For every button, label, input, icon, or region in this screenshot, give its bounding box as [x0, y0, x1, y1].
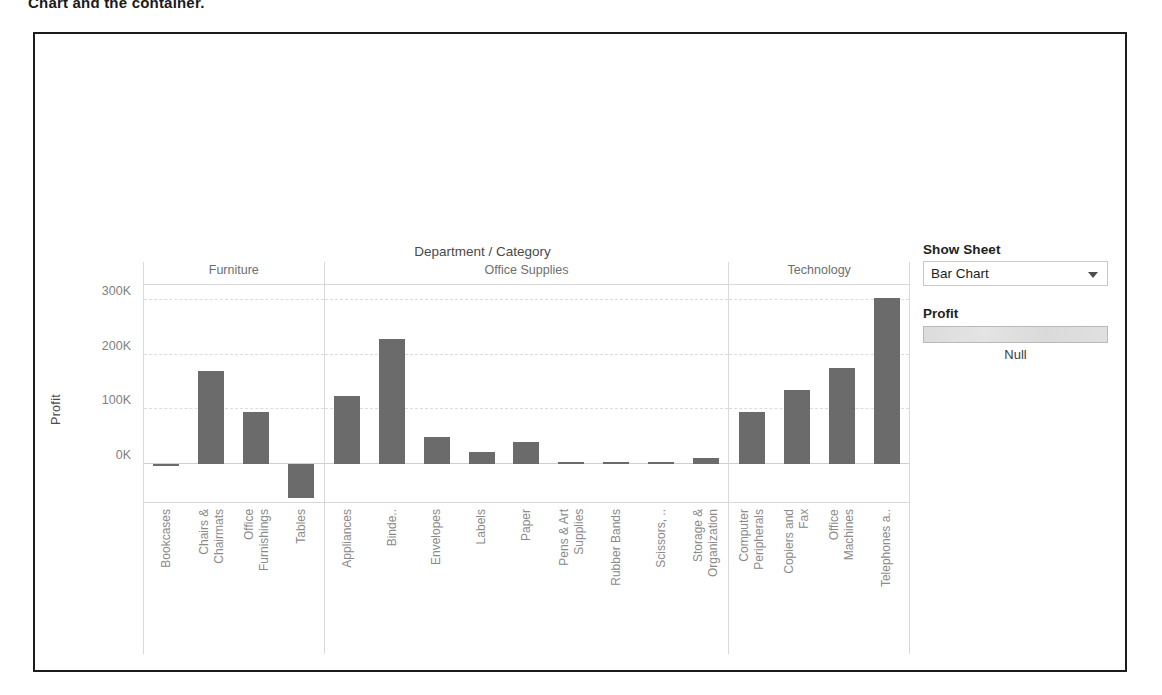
x-axis-label: Chairs & Chairmats — [197, 509, 226, 564]
bar[interactable] — [469, 452, 495, 464]
bar-slot — [325, 284, 370, 502]
bar[interactable] — [829, 368, 855, 463]
x-label-slot: Paper — [504, 503, 549, 660]
bar-slot — [459, 284, 504, 502]
plot-panel-technology — [729, 284, 909, 502]
x-label-slot: Pens & Art Supplies — [549, 503, 594, 660]
bar[interactable] — [379, 339, 405, 464]
x-axis-label: Bookcases — [159, 509, 174, 568]
x-axis-label: Copiers and Fax — [782, 509, 811, 574]
x-axis-label: Labels — [474, 509, 489, 544]
x-axis-label: Office Machines — [827, 509, 856, 560]
bar[interactable] — [874, 298, 900, 464]
x-axis-labels: BookcasesChairs & ChairmatsOffice Furnis… — [143, 502, 910, 654]
x-axis-label: Paper — [519, 509, 534, 541]
x-label-panel: Computer PeripheralsCopiers and FaxOffic… — [729, 503, 909, 654]
panel-header-furniture: Furniture — [143, 262, 324, 284]
bar-slot — [819, 284, 864, 502]
plot-panel-furniture — [144, 284, 325, 502]
y-axis-title: Profit — [49, 394, 63, 425]
dashboard-controls: Show Sheet Bar Chart Profit Null — [923, 242, 1113, 362]
x-label-slot: Rubber Bands — [594, 503, 639, 660]
x-label-slot: Office Furnishings — [234, 503, 279, 660]
bar[interactable] — [693, 458, 719, 463]
bar[interactable] — [513, 442, 539, 464]
panel-header-office-supplies: Office Supplies — [324, 262, 729, 284]
bar-slot — [549, 284, 594, 502]
x-label-slot: Telephones a.. — [864, 503, 909, 660]
bar[interactable] — [243, 412, 269, 464]
legend-null-label: Null — [923, 347, 1108, 362]
show-sheet-label: Show Sheet — [923, 242, 1113, 257]
bar[interactable] — [558, 462, 584, 464]
x-axis-label: Tables — [294, 509, 309, 544]
bar[interactable] — [198, 371, 224, 464]
bar-slot — [594, 284, 639, 502]
x-label-panel: BookcasesChairs & ChairmatsOffice Furnis… — [144, 503, 325, 654]
dashboard: Department / Category Profit 0K100K200K3… — [35, 34, 1125, 670]
x-axis-label: Telephones a.. — [879, 509, 894, 587]
bar[interactable] — [648, 462, 674, 464]
bar-slot — [234, 284, 279, 502]
x-axis-label: Computer Peripherals — [737, 509, 766, 570]
bar-slot — [864, 284, 909, 502]
x-axis-label: Appliances — [340, 509, 355, 568]
x-axis-label: Office Furnishings — [242, 509, 271, 571]
bar[interactable] — [424, 437, 450, 464]
panel-header-technology: Technology — [728, 262, 910, 284]
x-label-slot: Envelopes — [414, 503, 459, 660]
chevron-down-icon[interactable] — [1088, 272, 1098, 278]
x-label-slot: Chairs & Chairmats — [189, 503, 234, 660]
x-label-slot: Copiers and Fax — [774, 503, 819, 660]
x-label-slot: Computer Peripherals — [729, 503, 774, 660]
plot-canvas — [143, 284, 910, 502]
bar-slot — [144, 284, 189, 502]
bar-slot — [279, 284, 324, 502]
bar-slot — [639, 284, 684, 502]
x-label-slot: Appliances — [325, 503, 370, 660]
x-label-slot: Binde.. — [369, 503, 414, 660]
x-label-slot: Bookcases — [144, 503, 189, 660]
bar-slot — [684, 284, 729, 502]
x-axis-label: Pens & Art Supplies — [557, 509, 586, 566]
bar-slot — [504, 284, 549, 502]
plot-panel-office-supplies — [325, 284, 730, 502]
x-axis-label: Scissors, .. — [654, 509, 669, 568]
chart-title: Department / Category — [55, 244, 910, 259]
y-axis-ticks: 0K100K200K300K — [73, 266, 137, 502]
legend-title: Profit — [923, 306, 1113, 321]
bar-slot — [369, 284, 414, 502]
bar-slot — [414, 284, 459, 502]
page-top-cut-text: Chart and the container. — [28, 0, 448, 8]
x-label-panel: AppliancesBinde..EnvelopesLabelsPaperPen… — [325, 503, 730, 654]
bar[interactable] — [334, 396, 360, 464]
bar[interactable] — [739, 412, 765, 464]
bar-slot — [774, 284, 819, 502]
x-axis-label: Rubber Bands — [609, 509, 624, 586]
x-label-slot: Scissors, .. — [639, 503, 684, 660]
x-label-slot: Labels — [459, 503, 504, 660]
x-axis-label: Envelopes — [429, 509, 444, 565]
x-label-slot: Tables — [279, 503, 324, 660]
show-sheet-dropdown[interactable]: Bar Chart — [923, 261, 1108, 286]
x-label-slot: Office Machines — [819, 503, 864, 660]
x-label-slot: Storage & Organization — [684, 503, 729, 660]
x-axis-label: Binde.. — [385, 509, 400, 546]
bar[interactable] — [603, 462, 629, 464]
legend-gradient — [923, 326, 1108, 343]
show-sheet-value: Bar Chart — [931, 266, 989, 281]
x-axis-label: Storage & Organization — [691, 509, 720, 577]
bar[interactable] — [153, 464, 179, 466]
bar-slot — [729, 284, 774, 502]
panel-headers: FurnitureOffice SuppliesTechnology — [143, 262, 910, 285]
bar[interactable] — [288, 464, 314, 498]
bar-slot — [189, 284, 234, 502]
dashboard-frame: Department / Category Profit 0K100K200K3… — [33, 32, 1127, 672]
bar-chart: Department / Category Profit 0K100K200K3… — [55, 244, 910, 659]
bar[interactable] — [784, 390, 810, 464]
